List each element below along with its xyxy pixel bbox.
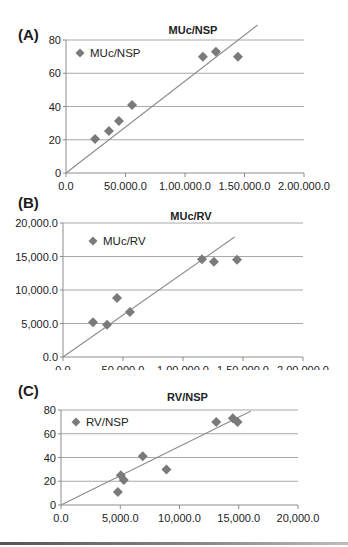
legend-label: MUc/RV (103, 235, 146, 247)
panel-b: (B) MUc/RV0.05,000.010,000.015,000.020,0… (0, 190, 348, 370)
data-point-diamond (211, 417, 221, 427)
y-tick-label: 80 (44, 404, 56, 416)
scatter-chart-mucrv: MUc/RV0.05,000.010,000.015,000.020,000.0… (0, 190, 348, 370)
y-tick-label: 0.0 (43, 351, 58, 363)
data-point-diamond (125, 307, 135, 317)
data-point-diamond (233, 52, 243, 62)
data-point-diamond (127, 100, 137, 110)
y-tick-label: 40 (49, 101, 61, 113)
x-tick-label: 0.0 (53, 512, 68, 524)
y-tick-label: 80 (49, 34, 61, 46)
x-tick-label: 1,50,000.0 (219, 180, 271, 190)
y-tick-label: 5,000.0 (21, 318, 58, 330)
data-point-diamond (113, 487, 123, 497)
legend-diamond-icon (89, 237, 98, 246)
y-tick-label: 20 (44, 475, 56, 487)
x-tick-label: 1,00,000.0 (159, 180, 211, 190)
x-tick-label: 15,000.0 (217, 512, 260, 524)
data-point-diamond (90, 134, 100, 144)
y-tick-label: 0 (55, 167, 61, 179)
data-point-diamond (88, 317, 98, 327)
data-point-diamond (198, 52, 208, 62)
data-point-diamond (138, 451, 148, 461)
scatter-chart-mucnsp: MUc/NSP0204060800.050,000.01,00,000.01,5… (0, 0, 348, 190)
y-tick-label: 60 (44, 428, 56, 440)
data-point-diamond (112, 293, 122, 303)
x-tick-label: 20,000.0 (277, 512, 320, 524)
legend-label: RV/NSP (86, 416, 129, 428)
x-tick-label: 0.0 (58, 180, 73, 190)
y-tick-label: 10,000.0 (15, 284, 58, 296)
x-tick-label: 5,000.0 (102, 512, 139, 524)
panel-a: (A) MUc/NSP0204060800.050,000.01,00,000.… (0, 0, 348, 190)
y-tick-label: 20 (49, 134, 61, 146)
chart-title: MUc/NSP (169, 24, 218, 36)
y-tick-label: 15,000.0 (15, 251, 58, 263)
panel-c: (C) RV/NSP0204060800.05,000.010,000.015,… (0, 370, 348, 540)
data-point-diamond (161, 464, 171, 474)
legend-diamond-icon (76, 49, 85, 58)
legend-diamond-icon (72, 418, 81, 427)
x-tick-label: 50,000.0 (104, 180, 147, 190)
chart-title: RV/NSP (167, 391, 208, 403)
chart-title: MUc/RV (170, 210, 212, 222)
data-point-diamond (114, 116, 124, 126)
y-tick-label: 0 (50, 499, 56, 511)
data-point-diamond (209, 257, 219, 267)
y-tick-label: 20,000.0 (15, 217, 58, 229)
legend-label: MUc/NSP (90, 47, 141, 59)
y-tick-label: 60 (49, 67, 61, 79)
data-point-diamond (104, 126, 114, 136)
y-tick-label: 40 (44, 452, 56, 464)
bottom-divider (0, 542, 348, 545)
scatter-chart-rvnsp: RV/NSP0204060800.05,000.010,000.015,000.… (0, 370, 348, 540)
x-tick-label: 2,00,000.0 (278, 180, 330, 190)
trend-line (63, 237, 235, 357)
x-tick-label: 10,000.0 (158, 512, 201, 524)
